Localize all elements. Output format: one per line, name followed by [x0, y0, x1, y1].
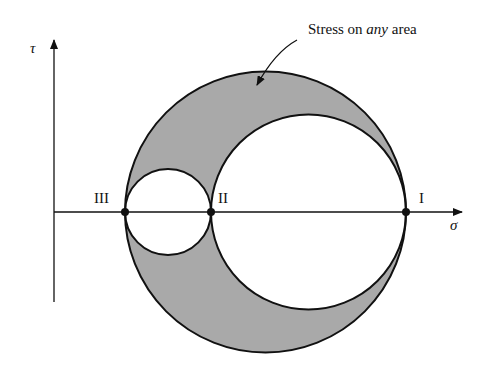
tau-axis-label: τ — [30, 40, 36, 56]
point-I-label: I — [419, 190, 424, 206]
mohr-circle-diagram: τ σ III II I Stress on any area — [0, 0, 491, 368]
point-II — [207, 208, 215, 216]
annotation-text: Stress on any area — [308, 21, 417, 37]
point-I — [402, 208, 410, 216]
point-III-label: III — [94, 190, 109, 206]
annotation-emphasis: any — [366, 21, 388, 37]
annotation-suffix: area — [388, 21, 417, 37]
point-III — [121, 208, 129, 216]
sigma-axis-label: σ — [450, 217, 458, 233]
point-II-label: II — [218, 190, 228, 206]
annotation-prefix: Stress on — [308, 21, 366, 37]
